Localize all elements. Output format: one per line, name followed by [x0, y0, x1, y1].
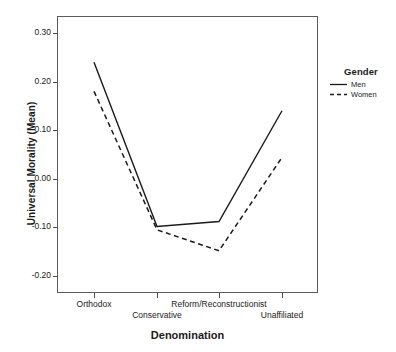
- series-line-men: [94, 62, 282, 226]
- legend-line-swatch: [330, 91, 347, 98]
- chart-figure: Universal Morality (Mean) 0.300.200.100.…: [0, 0, 396, 352]
- legend-item-women: Women: [328, 90, 394, 99]
- legend-title: Gender: [328, 66, 394, 77]
- x-tick-label: Conservative: [132, 310, 182, 320]
- y-tick-mark: [53, 276, 57, 277]
- y-tick-label: 0.20: [9, 76, 51, 86]
- legend-line-swatch: [330, 81, 347, 88]
- y-tick-mark: [53, 82, 57, 83]
- x-axis-title: Denomination: [57, 329, 318, 341]
- x-tick-label: Reform/Reconstructionist: [171, 299, 266, 309]
- y-tick-label: 0.30: [9, 27, 51, 37]
- legend-items: MenWomen: [328, 80, 394, 99]
- y-tick-mark: [53, 33, 57, 34]
- y-tick-mark: [53, 130, 57, 131]
- x-tick-mark: [157, 293, 158, 298]
- y-tick-label: -0.20: [9, 270, 51, 280]
- plot-lines: [57, 16, 318, 293]
- x-tick-label: Unaffiliated: [261, 310, 303, 320]
- y-tick-label: 0.00: [9, 173, 51, 183]
- legend-item-label: Women: [351, 90, 377, 99]
- x-tick-mark: [219, 293, 220, 298]
- x-tick-mark: [94, 293, 95, 298]
- legend: Gender MenWomen: [328, 66, 394, 99]
- y-tick-mark: [53, 179, 57, 180]
- x-tick-label: Orthodox: [77, 299, 112, 309]
- y-tick-mark: [53, 227, 57, 228]
- series-line-women: [94, 91, 282, 250]
- y-tick-label: 0.10: [9, 124, 51, 134]
- x-tick-mark: [282, 293, 283, 298]
- y-tick-label: -0.10: [9, 221, 51, 231]
- legend-item-label: Men: [351, 80, 366, 89]
- legend-item-men: Men: [328, 80, 394, 89]
